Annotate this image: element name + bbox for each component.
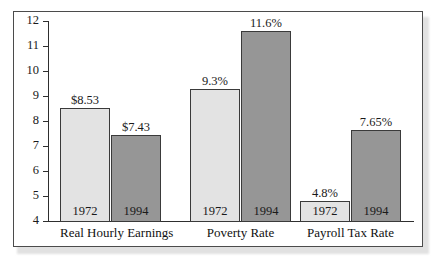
bar-value-label: 9.3%	[202, 74, 228, 88]
plot-area: 121110987654 $8.531972$7.4319949.3%19721…	[0, 0, 436, 263]
y-tick-label: 5	[33, 188, 39, 203]
y-tick-11: 11	[43, 46, 48, 47]
y-tick-label: 6	[33, 163, 39, 178]
bar-payroll-tax-rate-1994: 7.65%1994	[351, 130, 401, 222]
y-tick-10: 10	[43, 71, 48, 72]
bar-value-label: 4.8%	[312, 186, 338, 200]
bar-year-label: 1994	[364, 204, 389, 218]
bar-year-label: 1994	[124, 204, 149, 218]
y-tick-5: 5	[43, 196, 48, 197]
bar-value-label: $7.43	[122, 120, 150, 134]
y-tick-9: 9	[43, 96, 48, 97]
y-tick-label: 12	[27, 13, 40, 28]
category-label-payroll-tax-rate: Payroll Tax Rate	[300, 224, 401, 241]
bar-payroll-tax-rate-1972: 4.8%1972	[300, 201, 350, 222]
y-tick-label: 4	[33, 213, 39, 228]
bar-chart-figure: 121110987654 $8.531972$7.4319949.3%19721…	[0, 0, 436, 263]
y-tick-7: 7	[43, 146, 48, 147]
y-tick-8: 8	[43, 121, 48, 122]
bar-value-label: $8.53	[71, 93, 99, 107]
bar-value-label: 11.6%	[250, 16, 282, 30]
y-tick-6: 6	[43, 171, 48, 172]
bar-real-hourly-earnings-1972: $8.531972	[60, 108, 110, 222]
y-tick-label: 8	[33, 113, 39, 128]
bar-real-hourly-earnings-1994: $7.431994	[111, 135, 161, 222]
y-tick-4: 4	[43, 221, 48, 222]
bar-poverty-rate-1972: 9.3%1972	[190, 89, 240, 223]
y-tick-label: 11	[27, 38, 39, 53]
bar-value-label: 7.65%	[360, 115, 392, 129]
y-tick-label: 7	[33, 138, 39, 153]
y-tick-12: 12	[43, 21, 48, 22]
bar-year-label: 1972	[73, 204, 98, 218]
bar-poverty-rate-1994: 11.6%1994	[241, 31, 291, 222]
bar-year-label: 1994	[254, 204, 279, 218]
bar-year-label: 1972	[313, 204, 338, 218]
y-axis-line	[48, 21, 49, 222]
category-label-poverty-rate: Poverty Rate	[190, 224, 291, 241]
y-tick-label: 10	[27, 63, 40, 78]
category-label-real-hourly-earnings: Real Hourly Earnings	[60, 224, 161, 241]
y-tick-label: 9	[33, 88, 39, 103]
bar-year-label: 1972	[203, 204, 228, 218]
